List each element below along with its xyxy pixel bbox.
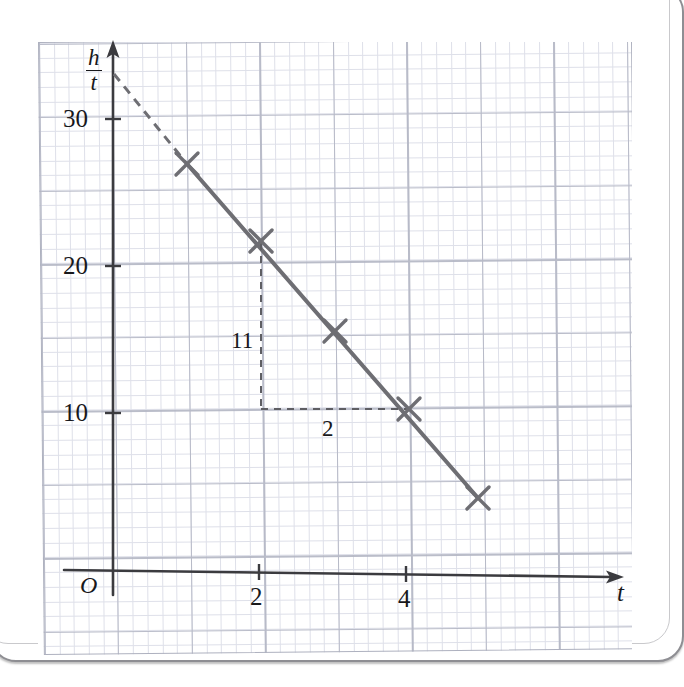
y-tick-label-20: 20 [63, 253, 88, 278]
y-axis [107, 40, 120, 595]
x-tick-label-4: 4 [398, 586, 411, 611]
x-axis-label: t [617, 580, 624, 605]
y-axis-label-denominator: t [86, 70, 102, 95]
origin-label: O [80, 573, 97, 597]
y-axis-label-numerator: h [86, 46, 102, 70]
gradient-triangle [261, 243, 409, 409]
extrapolation-dashed-line [114, 74, 187, 164]
gradient-run-label: 2 [322, 417, 334, 440]
data-point-marker [176, 153, 198, 175]
y-axis-label: h t [86, 46, 102, 95]
data-point-marker [324, 320, 346, 342]
data-point-marker [467, 487, 489, 509]
gradient-rise-label: 11 [231, 329, 253, 352]
y-tick-label-10: 10 [63, 400, 88, 425]
x-axis [64, 570, 624, 584]
x-tick-label-2: 2 [250, 584, 263, 609]
y-tick-label-30: 30 [63, 106, 88, 131]
